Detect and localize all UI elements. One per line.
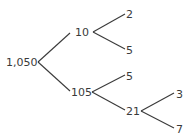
node-105: 105 bbox=[71, 86, 92, 99]
node-7: 7 bbox=[176, 123, 183, 136]
edge-10-2 bbox=[93, 14, 125, 32]
node-3: 3 bbox=[176, 88, 183, 101]
edge-1050-10 bbox=[38, 33, 70, 62]
edge-1050-105 bbox=[38, 62, 70, 91]
node-5-b: 5 bbox=[126, 70, 133, 83]
node-2: 2 bbox=[126, 8, 133, 21]
node-1050: 1,050 bbox=[6, 56, 38, 69]
edge-21-3 bbox=[141, 93, 174, 111]
edge-21-7 bbox=[141, 111, 174, 128]
node-10: 10 bbox=[75, 26, 89, 39]
edge-105-5 bbox=[92, 75, 125, 92]
tree-nodes: 1,050 10 105 2 5 5 21 3 7 bbox=[6, 8, 183, 136]
tree-edges bbox=[38, 14, 174, 128]
edge-10-5 bbox=[93, 32, 125, 49]
edge-105-21 bbox=[92, 92, 125, 110]
node-21: 21 bbox=[126, 105, 140, 118]
node-5-a: 5 bbox=[126, 44, 133, 57]
factor-tree-diagram: 1,050 10 105 2 5 5 21 3 7 bbox=[0, 0, 191, 140]
